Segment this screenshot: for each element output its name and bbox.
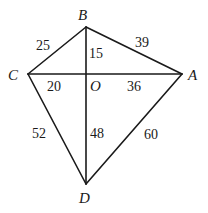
label-point-c: C (8, 67, 19, 83)
length-ad: 60 (144, 127, 158, 142)
length-cb: 25 (36, 38, 50, 53)
length-oa: 36 (127, 79, 141, 94)
label-point-b: B (78, 7, 87, 23)
kite-diagram: B C A O D 25 39 15 20 36 52 48 60 (0, 0, 208, 213)
length-bo: 15 (89, 46, 103, 61)
label-point-d: D (78, 190, 90, 206)
length-cd: 52 (32, 126, 46, 141)
length-co: 20 (47, 79, 61, 94)
label-point-o: O (90, 78, 101, 94)
length-od: 48 (90, 126, 104, 141)
length-ba: 39 (135, 35, 149, 50)
label-point-a: A (187, 67, 198, 83)
